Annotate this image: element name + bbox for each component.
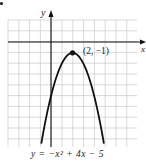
x-axis-label: x — [141, 45, 145, 54]
parabola-graph — [0, 0, 146, 161]
vertex-label: (2, −1) — [83, 47, 109, 57]
y-axis-label: y — [41, 8, 45, 18]
vertex-point — [70, 50, 75, 55]
grid — [8, 20, 137, 147]
equation-label: y = −x² + 4x − 5 — [31, 150, 104, 160]
